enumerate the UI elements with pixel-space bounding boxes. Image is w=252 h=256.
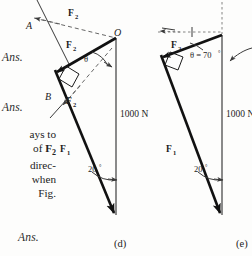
label-angle-20-unit-d: ° <box>99 164 102 170</box>
label-angle-20-unit-e: ° <box>205 164 208 170</box>
label-angle-20-e: 20 <box>194 164 203 174</box>
label-f2-lower-sub-d: 2 <box>73 101 76 108</box>
label-f1-d: F <box>60 144 66 154</box>
label-f2-mid-d: F <box>66 40 72 50</box>
label-f2-e: F <box>171 40 177 50</box>
figure-page: Ans. Ans. Ans. ays to of F2 direc- when … <box>0 0 252 256</box>
caption-figure-d: (d) <box>114 238 126 249</box>
label-point-a-d: A <box>25 20 33 31</box>
label-point-o-d: O <box>114 27 121 38</box>
label-theta-eq-e: θ = 70 <box>190 50 212 60</box>
label-f1-sub-d: 1 <box>67 149 70 156</box>
caption-figure-e: (e) <box>236 238 248 249</box>
curved-arrow-e <box>230 48 252 61</box>
label-f2-lower-d: F <box>66 96 72 106</box>
label-theta-d: θ <box>84 54 88 64</box>
theta-arc-arrow-d <box>104 62 112 67</box>
label-f1-sub-e: 1 <box>173 149 176 156</box>
vector-f1-d <box>55 70 114 213</box>
label-theta-eq-unit-e: ° <box>218 50 221 56</box>
small-tick-left-e <box>162 28 175 30</box>
label-f2-upper-sub-d: 2 <box>75 13 78 20</box>
label-1000n-d: 1000 N <box>120 109 148 119</box>
figure-d: A O B F 2 F 2 F 2 F 1 θ 20 ° 1000 N <box>25 0 148 215</box>
label-angle-20-d: 20 <box>88 164 97 174</box>
theta-arc-d <box>92 52 108 66</box>
label-point-b-d: B <box>45 91 51 102</box>
label-f2-upper-d: F <box>68 8 74 18</box>
construction-line-through-a <box>36 0 70 66</box>
label-1000n-e: 1000 N <box>226 109 252 119</box>
label-f1-e: F <box>166 144 172 154</box>
figure-e: F 2 θ = 70 ° F 1 20 ° 1000 N <box>158 2 252 215</box>
figures-canvas: A O B F 2 F 2 F 2 F 1 θ 20 ° 1000 N <box>0 0 252 256</box>
label-f2-sub-e: 2 <box>178 45 181 52</box>
vector-f1-e <box>161 55 220 213</box>
label-f2-mid-sub-d: 2 <box>73 45 76 52</box>
